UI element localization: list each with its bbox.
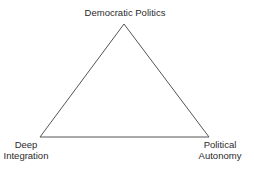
vertex-label-political-autonomy: Political Autonomy (194, 139, 246, 161)
label-line: Political (194, 139, 246, 150)
label-line: Deep (0, 139, 52, 150)
triangle-shape (40, 24, 209, 137)
label-line: Autonomy (194, 150, 246, 161)
label-line: Integration (0, 150, 52, 161)
vertex-label-deep-integration: Deep Integration (0, 139, 52, 161)
vertex-label-democratic-politics: Democratic Politics (0, 7, 250, 18)
